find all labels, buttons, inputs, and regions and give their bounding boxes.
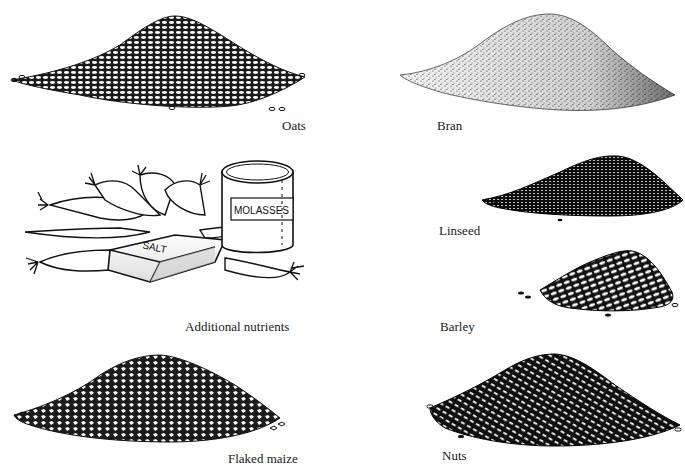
nuts-pile [427,354,681,446]
bran-pile [400,14,675,110]
label-additional-nutrients: Additional nutrients [185,319,289,334]
salt-block: SALT [108,235,225,282]
label-oats: Oats [282,118,306,133]
molasses-can: MOLASSES [222,161,293,253]
oats-pile [11,16,305,111]
label-barley: Barley [440,319,475,334]
linseed-pile [482,156,683,221]
molasses-text: MOLASSES [234,205,289,216]
label-bran: Bran [437,118,462,133]
label-linseed: Linseed [439,223,480,238]
label-nuts: Nuts [442,448,467,463]
feed-types-illustration: SALT MOLASSES Oats Bran Additional nutri… [0,0,685,471]
flaked-maize-pile [14,355,285,442]
label-flaked-maize: Flaked maize [228,451,298,466]
additional-nutrients-group: SALT MOLASSES [25,161,304,282]
barley-pile [518,251,678,317]
illustration-artwork: SALT MOLASSES [0,0,685,471]
